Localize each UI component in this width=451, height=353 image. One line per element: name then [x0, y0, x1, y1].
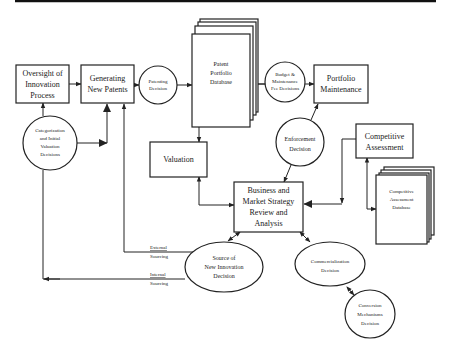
svg-text:Enforcement: Enforcement — [285, 136, 316, 142]
svg-text:Patenting: Patenting — [149, 79, 168, 84]
svg-text:Mechanisms: Mechanisms — [357, 312, 382, 317]
node-patenting-decision: Patenting Decision — [139, 66, 177, 104]
svg-text:Maintenance: Maintenance — [320, 85, 362, 94]
node-categorization-initial-valuation-decisions: Categorization and Initial Valuation Dec… — [23, 116, 77, 170]
svg-text:Review and: Review and — [250, 208, 288, 217]
svg-text:Portfolio: Portfolio — [327, 74, 355, 83]
node-patent-portfolio-database: Patent Portfolio Database — [192, 19, 258, 127]
svg-text:New Patents: New Patents — [87, 85, 127, 94]
svg-text:Commercialization: Commercialization — [311, 259, 350, 264]
svg-text:Decision: Decision — [149, 86, 167, 91]
svg-text:Categorization: Categorization — [35, 128, 65, 133]
svg-text:Competitive: Competitive — [365, 132, 405, 141]
svg-text:Innovation: Innovation — [25, 80, 60, 89]
svg-text:Business and: Business and — [248, 186, 290, 195]
svg-text:Oversight of: Oversight of — [22, 69, 63, 78]
svg-text:Decision: Decision — [213, 273, 234, 279]
svg-text:Sourcing: Sourcing — [150, 254, 169, 259]
node-portfolio-maintenance: Portfolio Maintenance — [314, 65, 368, 103]
node-conversion-mechanisms-decision: Conversion Mechanisms Decision — [345, 290, 395, 338]
node-competitive-assessment: Competitive Assessment — [356, 124, 413, 158]
svg-text:Decision: Decision — [361, 321, 379, 326]
svg-text:Maintenance: Maintenance — [272, 79, 299, 84]
svg-text:Competitive: Competitive — [389, 189, 415, 194]
node-competitive-assessment-database: Competitive Assessment Database — [376, 167, 434, 244]
svg-text:External: External — [150, 245, 168, 250]
node-commercialization-decision: Commercialization Decision — [295, 242, 365, 286]
svg-text:and Initial: and Initial — [40, 136, 61, 141]
innovation-process-diagram: External Sourcing Internal Sourcing Over… — [0, 0, 451, 353]
svg-text:Sourcing: Sourcing — [150, 281, 169, 286]
svg-text:Decision: Decision — [321, 268, 339, 273]
svg-text:Database: Database — [210, 79, 232, 85]
svg-text:Process: Process — [30, 91, 54, 100]
svg-text:Database: Database — [392, 205, 411, 210]
svg-text:Valuation: Valuation — [163, 155, 194, 164]
svg-text:Source of: Source of — [212, 255, 235, 261]
svg-text:Budget &: Budget & — [275, 72, 295, 77]
svg-text:Portfolio: Portfolio — [210, 70, 231, 76]
svg-text:Fee Decisions: Fee Decisions — [271, 86, 299, 91]
node-business-market-strategy-review: Business and Market Strategy Review and … — [234, 182, 303, 232]
svg-text:Assessment: Assessment — [366, 143, 405, 152]
svg-text:New Innovation: New Innovation — [205, 264, 244, 270]
svg-text:Patent: Patent — [214, 61, 229, 67]
svg-text:Conversion: Conversion — [358, 303, 382, 308]
node-enforcement-decision: Enforcement Decision — [276, 118, 324, 166]
svg-text:Assessment: Assessment — [390, 197, 414, 202]
node-valuation: Valuation — [150, 142, 207, 177]
svg-text:Market Strategy: Market Strategy — [243, 197, 295, 206]
svg-text:Generating: Generating — [90, 74, 126, 83]
svg-text:Decisions: Decisions — [40, 152, 60, 157]
node-oversight-of-innovation-process: Oversight of Innovation Process — [16, 65, 69, 103]
node-source-of-new-innovation-decision: Source of New Innovation Decision — [185, 242, 263, 292]
svg-text:Internal: Internal — [150, 272, 166, 277]
svg-text:Analysis: Analysis — [255, 219, 283, 228]
svg-text:Valuation: Valuation — [40, 144, 60, 149]
node-generating-new-patents: Generating New Patents — [81, 65, 134, 103]
node-budget-maintenance-fee-decisions: Budget & Maintenance Fee Decisions — [265, 62, 305, 102]
svg-text:Decision: Decision — [289, 146, 310, 152]
